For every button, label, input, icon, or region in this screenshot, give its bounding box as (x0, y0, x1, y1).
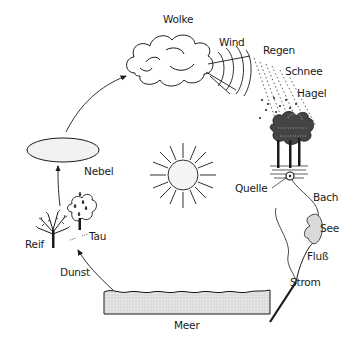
label-meer: Meer (174, 320, 200, 331)
label-wolke: Wolke (163, 14, 193, 25)
sea-icon (104, 290, 270, 314)
arrow-plants-to-fog (58, 166, 60, 206)
label-strom: Strom (290, 277, 321, 288)
label-regen: Regen (263, 45, 295, 56)
water-cycle-diagram (0, 0, 357, 349)
label-schnee: Schnee (285, 66, 322, 77)
label-bach: Bach (313, 192, 338, 203)
label-nebel: Nebel (84, 166, 113, 177)
label-reif: Reif (25, 239, 44, 250)
label-see: See (320, 223, 339, 234)
spring-icon (272, 172, 294, 188)
label-quelle: Quelle (235, 183, 267, 194)
label-wind: Wind (219, 37, 245, 48)
label-tau: Tau (89, 231, 106, 242)
fog-icon (27, 138, 99, 162)
label-dunst: Dunst (60, 267, 90, 278)
label-hagel: Hagel (297, 88, 326, 99)
cloud-icon (127, 35, 213, 86)
arrow-fog-to-cloud (66, 76, 126, 132)
label-fluss: Fluß (307, 251, 328, 262)
sun-icon (150, 143, 216, 208)
forest-icon (270, 112, 314, 179)
wind-icon (206, 46, 251, 96)
